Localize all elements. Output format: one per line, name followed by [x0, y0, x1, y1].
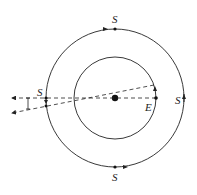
- sun-point-top: [113, 27, 116, 30]
- label-earth: E: [144, 101, 152, 113]
- earth-point: [154, 96, 158, 100]
- arrow-top-icon: [103, 27, 108, 31]
- sun-point-left: [44, 96, 47, 99]
- label-sun-bottom: S: [112, 171, 118, 183]
- label-sun-left: S: [37, 86, 43, 98]
- label-sun-top: S: [112, 13, 118, 25]
- arrow-earth-icon: [153, 86, 157, 91]
- orbit-diagram: S S S S E: [0, 0, 197, 195]
- arrow-left-icon: [44, 100, 48, 104]
- label-sun-right: S: [175, 94, 181, 106]
- dashed-line-tilted: [12, 85, 154, 113]
- sun-point-left-2: [45, 105, 48, 108]
- sun-point-bottom: [113, 165, 116, 168]
